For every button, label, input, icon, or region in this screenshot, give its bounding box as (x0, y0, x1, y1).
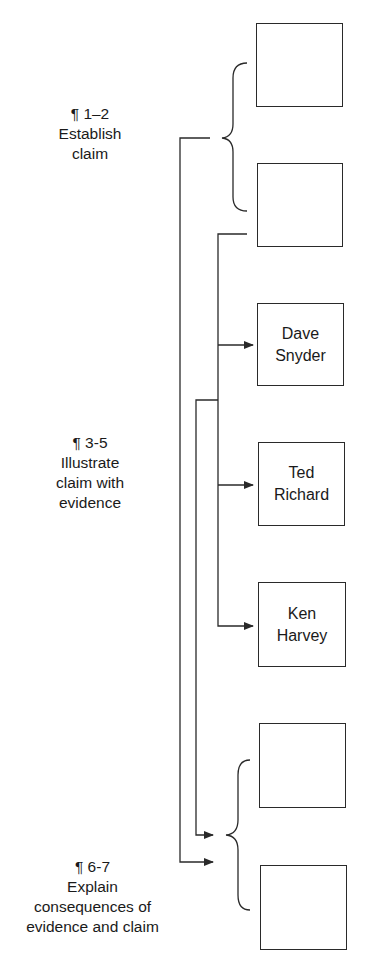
brace-top (222, 63, 247, 211)
paragraph-range: ¶ 6-7 (0, 857, 185, 877)
path-evidence-to-explain (196, 400, 218, 835)
box-7 (260, 865, 347, 950)
path-claim-to-evidence (218, 234, 253, 626)
brace-bottom (226, 760, 250, 910)
box-6 (259, 723, 346, 808)
paragraph-range: ¶ 3-5 (30, 433, 150, 453)
box-2 (257, 163, 343, 247)
label-explain-consequences: ¶ 6-7 Explain consequences of evidence a… (0, 857, 185, 937)
box-1 (256, 23, 343, 107)
label-illustrate-claim: ¶ 3-5 Illustrate claim with evidence (30, 433, 150, 513)
paragraph-range: ¶ 1–2 (40, 104, 140, 124)
label-establish-claim: ¶ 1–2 Establish claim (40, 104, 140, 164)
box-ted-richard: TedRichard (258, 442, 345, 526)
box-dave-snyder: DaveSnyder (257, 303, 344, 386)
box-ken-harvey: KenHarvey (258, 582, 346, 667)
